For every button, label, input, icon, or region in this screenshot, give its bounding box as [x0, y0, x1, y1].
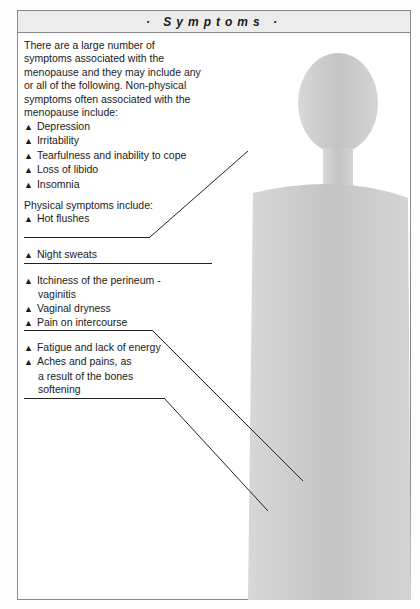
callout-lines — [18, 11, 412, 601]
symptoms-panel: · Symptoms · There are a large number of… — [17, 10, 411, 600]
